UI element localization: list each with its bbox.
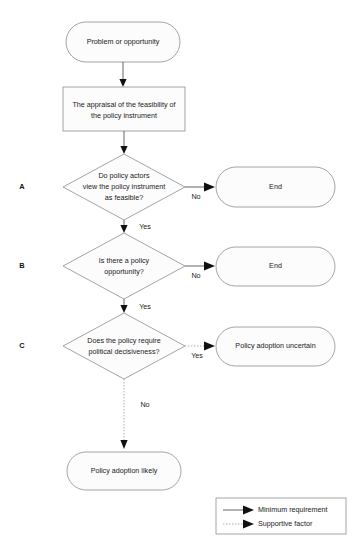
node-label-appraisal-line2: the policy instrument [91,111,157,120]
stage-label-a: A [19,182,25,191]
legend: Minimum requirement Supportive factor [216,498,346,534]
node-label-decision-c-line2: political decisiveness? [88,347,159,356]
legend-label-minimum-requirement: Minimum requirement [258,505,328,514]
node-end-b: End [216,247,335,286]
edge-label-b-yes: Yes [139,302,151,311]
node-shape-rectangle [63,87,185,131]
node-label-decision-a-line1: Do policy actors [98,171,150,180]
edge-decision-b-to-end-b: No [185,262,215,280]
edge-decision-a-to-end-a: No [185,183,215,201]
flowchart-diagram: A B C Problem or opportunity The apprais… [0,0,356,559]
node-label-decision-b-line2: opportunity? [104,267,144,276]
edge-label-c-no: No [140,400,149,409]
arrow-head-icon [204,342,215,351]
node-label-problem-or-opportunity: Problem or opportunity [87,37,160,46]
node-label-policy-adoption-uncertain: Policy adoption uncertain [235,341,315,350]
node-decision-a-policy-actors-feasible: Do policy actors view the policy instrum… [63,154,185,220]
node-problem-or-opportunity: Problem or opportunity [66,22,180,62]
edge-decision-a-to-decision-b: Yes [120,220,151,233]
node-appraisal-of-feasibility: The appraisal of the feasibility of the … [63,87,185,131]
legend-label-supportive-factor: Supportive factor [258,519,313,528]
node-label-end-b: End [269,261,282,270]
arrow-head-icon [204,183,215,192]
edge-label-a-no: No [191,192,200,201]
edge-start-to-appraisal [119,62,126,87]
legend-box [216,498,346,534]
edge-label-c-yes: Yes [191,351,203,360]
stage-label-b: B [19,261,24,270]
node-label-decision-a-line3: as feasible? [105,193,143,202]
node-label-decision-c-line1: Does the policy require [87,336,161,345]
node-label-policy-adoption-likely: Policy adoption likely [91,466,158,475]
node-label-appraisal-line1: The appraisal of the feasibility of [72,100,175,109]
node-label-decision-b-line1: Is there a policy [99,256,150,265]
arrow-head-icon [120,305,127,313]
node-decision-c-political-decisiveness: Does the policy require political decisi… [63,313,185,379]
edge-decision-c-to-uncertain: Yes [185,342,215,360]
arrow-head-icon [120,146,127,154]
node-end-a: End [216,167,335,207]
node-policy-adoption-uncertain: Policy adoption uncertain [216,327,335,366]
edge-label-b-no: No [191,271,200,280]
arrow-head-icon [204,262,215,271]
node-label-decision-a-line2: view the policy instrument [83,182,165,191]
node-policy-adoption-likely: Policy adoption likely [67,452,181,490]
stage-label-c: C [19,341,25,350]
node-label-end-a: End [269,182,282,191]
edge-decision-b-to-decision-c: Yes [120,299,151,313]
edge-label-a-yes: Yes [139,222,151,231]
arrow-head-icon [120,225,127,233]
edge-appraisal-to-decision-a [120,131,127,154]
node-decision-b-policy-opportunity: Is there a policy opportunity? [63,233,185,299]
arrow-head-icon [120,440,127,449]
edge-decision-c-to-likely: No [120,379,149,449]
arrow-head-icon [119,79,126,87]
